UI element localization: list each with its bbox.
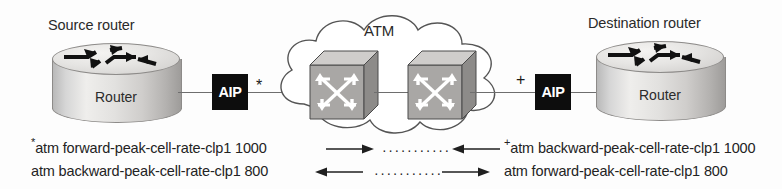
router-arrows-icon bbox=[596, 41, 724, 75]
arrow-right-row-1 bbox=[326, 143, 374, 155]
destination-router-caption: Destination router bbox=[588, 15, 701, 31]
command-row-1: *atm forward-peak-cell-rate-clp1 1000 ··… bbox=[0, 137, 782, 159]
destination-marker-plus: + bbox=[516, 72, 525, 88]
arrow-left-row-2 bbox=[315, 166, 363, 178]
command-row-2-left-text: atm backward-peak-cell-rate-clp1 800 bbox=[31, 163, 268, 179]
source-router-caption: Source router bbox=[48, 17, 135, 33]
command-row-1-right-text: atm backward-peak-cell-rate-clp1 1000 bbox=[510, 140, 755, 156]
dots-row-1: ··········· bbox=[382, 143, 451, 157]
command-row-2-right: atm forward-peak-cell-rate-clp1 800 bbox=[504, 160, 728, 179]
arrow-right-row-2 bbox=[442, 166, 490, 178]
command-row-1-left-marker: * bbox=[31, 136, 35, 148]
destination-aip-adapter: AIP bbox=[535, 74, 571, 110]
wire-between-switches bbox=[374, 92, 410, 93]
atm-cloud-label: ATM bbox=[364, 22, 394, 39]
command-row-1-right: +atm backward-peak-cell-rate-clp1 1000 bbox=[504, 137, 755, 156]
wire-aip-to-destination bbox=[571, 92, 599, 93]
command-row-1-left: *atm forward-peak-cell-rate-clp1 1000 bbox=[31, 137, 267, 156]
command-row-1-right-marker: + bbox=[504, 136, 510, 148]
destination-router-icon: Router bbox=[596, 41, 724, 119]
command-row-2: atm backward-peak-cell-rate-clp1 800 ···… bbox=[0, 160, 782, 182]
atm-switch-1-icon bbox=[308, 47, 382, 123]
command-row-1-left-text: atm forward-peak-cell-rate-clp1 1000 bbox=[35, 140, 267, 156]
network-diagram: Source router Router AIP bbox=[0, 0, 782, 189]
atm-switch-2-icon bbox=[406, 47, 480, 123]
source-aip-adapter: AIP bbox=[212, 74, 248, 110]
source-router-icon: Router bbox=[52, 43, 180, 121]
command-row-2-left: atm backward-peak-cell-rate-clp1 800 bbox=[31, 160, 268, 179]
wire-source-to-aip bbox=[178, 92, 212, 93]
arrow-left-row-1 bbox=[452, 143, 500, 155]
destination-router-device-label: Router bbox=[596, 87, 724, 103]
dots-row-2: ··········· bbox=[374, 166, 443, 180]
command-row-2-right-text: atm forward-peak-cell-rate-clp1 800 bbox=[504, 163, 728, 179]
router-arrows-icon bbox=[52, 43, 180, 77]
source-router-device-label: Router bbox=[52, 89, 180, 105]
